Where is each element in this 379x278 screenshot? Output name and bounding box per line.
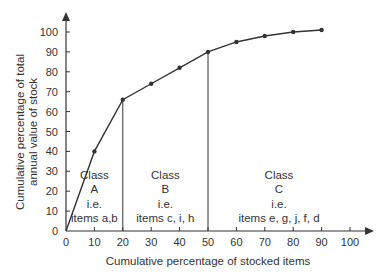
x-tick-label: 60: [230, 236, 242, 248]
data-point: [206, 50, 210, 54]
x-tick-label: 20: [117, 236, 129, 248]
data-point: [234, 40, 238, 44]
class-annotation-text: C: [275, 183, 283, 195]
class-annotation-text: i.e.: [158, 198, 173, 210]
x-tick-label: 0: [63, 236, 69, 248]
data-point: [92, 149, 96, 153]
x-axis-ticks: 0102030405060708090100: [63, 227, 359, 248]
abc-analysis-chart: 0102030405060708090100 01020304050607080…: [0, 0, 379, 278]
class-annotation-text: i.e.: [271, 198, 286, 210]
x-tick-label: 100: [341, 236, 359, 248]
y-tick-label: 80: [46, 66, 58, 78]
svg-text:Cumulative percentage of total: Cumulative percentage of total: [14, 54, 26, 210]
y-tick-label: 100: [40, 26, 58, 38]
y-tick-label: 90: [46, 46, 58, 58]
y-axis-label: Cumulative percentage of totalannual val…: [14, 54, 39, 210]
y-axis-arrow-icon: [62, 12, 70, 21]
class-annotation-text: Class: [151, 169, 180, 181]
x-axis-arrow-icon: [365, 227, 374, 235]
data-point: [291, 30, 295, 34]
x-tick-label: 40: [173, 236, 185, 248]
y-tick-label: 30: [46, 165, 58, 177]
y-tick-label: 60: [46, 106, 58, 118]
class-annotation-text: Class: [265, 169, 294, 181]
data-point: [263, 34, 267, 38]
data-point: [177, 66, 181, 70]
y-tick-label: 40: [46, 145, 58, 157]
class-annotation-text: items a,b: [71, 212, 118, 224]
class-annotations: ClassAi.e.items a,bClassBi.e.items c, i,…: [71, 169, 320, 224]
y-tick-label: 20: [46, 185, 58, 197]
y-tick-label: 10: [46, 205, 58, 217]
class-annotation-text: A: [91, 183, 99, 195]
data-point: [149, 82, 153, 86]
x-tick-label: 70: [259, 236, 271, 248]
class-annotation-text: items e, g, j, f, d: [238, 212, 319, 224]
class-annotation-text: Class: [80, 169, 109, 181]
x-tick-label: 90: [315, 236, 327, 248]
svg-text:annual value of stock: annual value of stock: [27, 78, 39, 186]
x-tick-label: 50: [202, 236, 214, 248]
class-annotation-text: i.e.: [87, 198, 102, 210]
class-annotation-text: B: [162, 183, 170, 195]
data-point: [121, 97, 125, 101]
x-tick-label: 10: [88, 236, 100, 248]
class-annotation-text: items c, i, h: [136, 212, 194, 224]
data-point: [319, 28, 323, 32]
y-tick-label: 70: [46, 86, 58, 98]
axes: [62, 12, 374, 235]
x-tick-label: 30: [145, 236, 157, 248]
y-tick-label: 50: [46, 126, 58, 138]
x-axis-label: Cumulative percentage of stocked items: [106, 255, 311, 267]
y-tick-label: 0: [52, 225, 58, 237]
x-tick-label: 80: [287, 236, 299, 248]
